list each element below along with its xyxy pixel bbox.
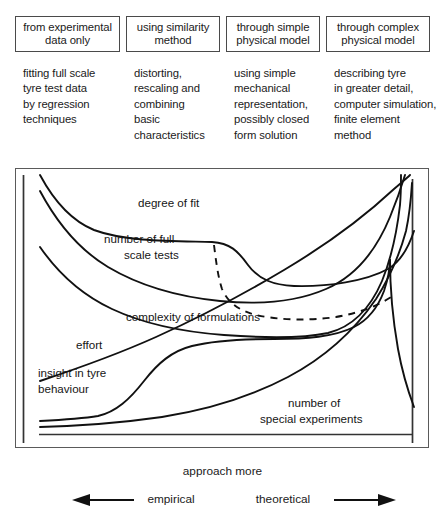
- category-box-label: using similarity method: [127, 21, 219, 48]
- theoretical-label: theoretical: [240, 492, 326, 506]
- chart-annotation-insight-in-tyre-behaviour-line1: insight in tyre: [38, 366, 106, 379]
- category-box-label: from experimental data only: [16, 21, 119, 48]
- category-box-using-similarity-method: using similarity method: [126, 16, 220, 52]
- description-column-experimental: fitting full scale tyre test data by reg…: [23, 66, 131, 128]
- category-box-label: through simple physical model: [227, 21, 319, 48]
- curve-number-of-special-experiments: [40, 183, 412, 427]
- category-box-row: from experimental data only using simila…: [0, 0, 445, 56]
- chart-annotation-degree-of-fit: degree of fit: [138, 196, 200, 209]
- chart-annotation-complexity-of-formulations: complexity of formulations: [126, 310, 260, 323]
- trade-off-curves-chart: degree of fit number of full scale tests…: [16, 169, 428, 447]
- empirical-label: empirical: [128, 492, 214, 506]
- curve-number-of-full-scale-tests: [40, 175, 414, 286]
- curve-complexity-of-formulations: [40, 175, 405, 303]
- category-box-from-experimental-data-only: from experimental data only: [15, 16, 120, 52]
- chart-annotation-number-of-full-scale-tests-line2: scale tests: [124, 248, 179, 261]
- chart-annotation-number-of-special-experiments-line2: special experiments: [260, 412, 363, 425]
- chart-axis-footer: approach more empirical theoretical: [0, 452, 445, 517]
- arrow-left-icon: [70, 491, 136, 509]
- approach-more-label: approach more: [0, 464, 445, 478]
- category-box-label: through complex physical model: [327, 21, 429, 48]
- category-box-through-complex-physical-model: through complex physical model: [326, 16, 430, 52]
- chart-panel: degree of fit number of full scale tests…: [15, 168, 429, 448]
- chart-annotation-number-of-special-experiments-line1: number of: [288, 396, 341, 409]
- arrow-right-icon: [332, 491, 398, 509]
- chart-annotation-number-of-full-scale-tests-line1: number of full: [104, 232, 174, 245]
- chart-annotation-effort: effort: [76, 338, 103, 351]
- description-column-simple-model: using simple mechanical representation, …: [234, 66, 330, 143]
- category-box-through-simple-physical-model: through simple physical model: [226, 16, 320, 52]
- description-column-similarity: distorting, rescaling and combining basi…: [134, 66, 226, 143]
- chart-annotation-insight-in-tyre-behaviour-line2: behaviour: [38, 382, 89, 395]
- description-column-complex-model: describing tyre in greater detail, compu…: [334, 66, 445, 143]
- description-column-row: fitting full scale tyre test data by reg…: [0, 66, 445, 162]
- axis-direction-row: empirical theoretical: [0, 489, 445, 513]
